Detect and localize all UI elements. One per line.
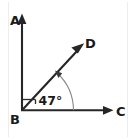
- ray-bd-arrowhead-icon: [71, 43, 84, 53]
- ray-bc: [21, 106, 114, 115]
- angle-diagram-canvas: A B C D 47°: [0, 0, 130, 139]
- vertex-label-b: B: [10, 112, 20, 127]
- geometry-figure: A B C D 47°: [0, 0, 130, 139]
- angle-measure-label: 47°: [39, 93, 63, 108]
- vertex-label-a: A: [10, 13, 20, 28]
- vertex-label-d: D: [85, 36, 96, 51]
- ray-ba: [18, 14, 27, 111]
- vertex-label-c: C: [116, 104, 126, 119]
- ray-bc-arrowhead-icon: [103, 106, 114, 115]
